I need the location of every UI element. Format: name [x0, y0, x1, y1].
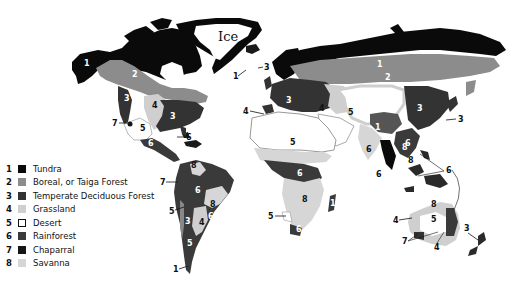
svg-text:2: 2 — [385, 73, 391, 82]
legend-number: 7 — [6, 245, 18, 255]
svg-text:4: 4 — [434, 243, 440, 252]
svg-text:3: 3 — [458, 115, 464, 124]
legend-label: Tundra — [33, 164, 62, 174]
legend-label: Chaparral — [33, 245, 75, 255]
svg-text:3: 3 — [264, 63, 270, 72]
svg-text:5: 5 — [290, 138, 296, 147]
svg-text:6: 6 — [297, 169, 303, 178]
svg-text:3: 3 — [286, 96, 292, 105]
svg-text:6: 6 — [195, 186, 201, 195]
svg-text:4: 4 — [319, 104, 325, 113]
svg-text:2: 2 — [132, 70, 138, 79]
chaparral-swatch-icon — [18, 246, 26, 254]
ice-label: Ice — [218, 29, 238, 44]
legend-number: 4 — [6, 204, 18, 214]
svg-text:6: 6 — [376, 170, 382, 179]
svg-text:7: 7 — [402, 237, 408, 246]
legend-item-savanna: 8 Savanna — [6, 257, 176, 271]
svg-text:1: 1 — [233, 72, 239, 81]
svg-text:8: 8 — [210, 200, 216, 209]
svg-text:6: 6 — [148, 139, 154, 148]
legend-number: 8 — [6, 258, 18, 268]
legend-label: Desert — [33, 218, 61, 228]
legend-number: 1 — [6, 164, 18, 174]
svg-text:3: 3 — [170, 112, 176, 121]
svg-text:5: 5 — [431, 215, 437, 224]
svg-text:8: 8 — [302, 195, 308, 204]
svg-text:4: 4 — [393, 216, 399, 225]
svg-text:1: 1 — [330, 199, 336, 208]
legend-label: Boreal, or Taiga Forest — [33, 177, 128, 187]
legend-number: 2 — [6, 177, 18, 187]
svg-text:6: 6 — [296, 225, 302, 234]
legend-number: 3 — [6, 191, 18, 201]
savanna-swatch-icon — [18, 259, 26, 267]
svg-text:3: 3 — [124, 94, 130, 103]
svg-text:1: 1 — [84, 59, 90, 68]
svg-text:6: 6 — [366, 145, 372, 154]
legend-item-rainforest: 6 Rainforest — [6, 230, 176, 244]
svg-text:1: 1 — [375, 123, 381, 132]
svg-text:4: 4 — [199, 218, 205, 227]
svg-text:4: 4 — [152, 101, 158, 110]
svg-text:5: 5 — [348, 108, 354, 117]
legend-label: Grassland — [33, 204, 76, 214]
svg-text:1: 1 — [377, 60, 383, 69]
legend-number: 6 — [6, 231, 18, 241]
rainforest-swatch-icon — [18, 232, 26, 240]
tundra-swatch-icon — [18, 165, 26, 173]
svg-text:5: 5 — [268, 212, 274, 221]
svg-text:8: 8 — [191, 161, 197, 170]
africa — [250, 112, 336, 236]
oceania — [404, 150, 486, 256]
desert-swatch-icon — [18, 219, 26, 227]
legend-item-boreal: 2 Boreal, or Taiga Forest — [6, 176, 176, 190]
svg-text:6: 6 — [186, 133, 192, 142]
legend-item-tundra: 1 Tundra — [6, 162, 176, 176]
boreal-swatch-icon — [18, 178, 26, 186]
legend-item-chaparral: 7 Chaparral — [6, 243, 176, 257]
legend-label: Rainforest — [33, 231, 76, 241]
legend-label: Savanna — [33, 258, 70, 268]
svg-text:6: 6 — [446, 166, 452, 175]
svg-text:7: 7 — [112, 119, 118, 128]
iceland — [246, 44, 260, 54]
legend-item-desert: 5 Desert — [6, 216, 176, 230]
legend-number: 5 — [6, 218, 18, 228]
biome-legend: 1 Tundra 2 Boreal, or Taiga Forest 3 Tem… — [6, 162, 176, 270]
svg-text:3: 3 — [417, 104, 423, 113]
svg-text:4: 4 — [243, 107, 249, 116]
svg-text:6: 6 — [208, 212, 214, 221]
temperate-swatch-icon — [18, 192, 26, 200]
legend-label: Temperate Deciduous Forest — [33, 191, 154, 201]
legend-item-temperate: 3 Temperate Deciduous Forest — [6, 189, 176, 203]
svg-text:8: 8 — [408, 156, 414, 165]
south-america — [174, 160, 234, 274]
svg-text:3: 3 — [185, 217, 191, 226]
svg-text:6: 6 — [405, 139, 411, 148]
svg-text:5: 5 — [140, 124, 146, 133]
svg-text:3: 3 — [464, 224, 470, 233]
svg-text:5: 5 — [187, 239, 193, 248]
svg-text:8: 8 — [431, 200, 437, 209]
grassland-swatch-icon — [18, 205, 26, 213]
legend-item-grassland: 4 Grassland — [6, 203, 176, 217]
